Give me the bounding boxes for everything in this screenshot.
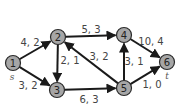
sink-label: t bbox=[165, 71, 169, 81]
node-label: 2 bbox=[55, 32, 61, 43]
node-label: 1 bbox=[10, 58, 16, 69]
source-label: s bbox=[10, 72, 15, 82]
edge-2-4 bbox=[65, 35, 115, 37]
node-6: 6 bbox=[160, 55, 175, 70]
edge-label-5-2: 3, 2 bbox=[89, 51, 108, 62]
node-label: 3 bbox=[54, 85, 60, 96]
edge-label-1-2: 4, 2 bbox=[20, 37, 39, 48]
edge-label-2-4: 5, 3 bbox=[81, 24, 100, 35]
edge-label-2-3: 2, 1 bbox=[60, 55, 79, 66]
flow-network-diagram: 4, 23, 22, 15, 33, 26, 33, 110, 41, 0 12… bbox=[0, 0, 184, 109]
edge-3-5 bbox=[64, 88, 115, 90]
node-label: 4 bbox=[121, 30, 127, 41]
node-3: 3 bbox=[50, 83, 65, 98]
edge-label-1-3: 3, 2 bbox=[18, 80, 37, 91]
node-5: 5 bbox=[117, 81, 132, 96]
edge-label-5-4: 3, 1 bbox=[124, 56, 143, 67]
edge-label-3-5: 6, 3 bbox=[79, 94, 98, 105]
node-label: 5 bbox=[121, 83, 127, 94]
edge-label-4-6: 10, 4 bbox=[138, 36, 163, 47]
node-4: 4 bbox=[117, 28, 132, 43]
node-1: 1 bbox=[6, 56, 21, 71]
node-2: 2 bbox=[51, 30, 66, 45]
edge-label-5-6: 1, 0 bbox=[142, 79, 161, 90]
node-label: 6 bbox=[164, 57, 170, 68]
edge-2-3 bbox=[57, 44, 58, 81]
